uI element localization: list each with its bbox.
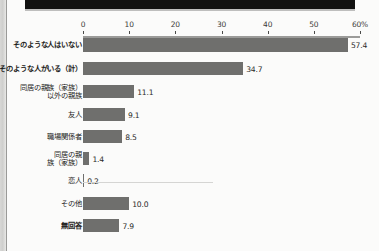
bar-row: そのような人がいる（計）34.7: [0, 62, 379, 75]
category-label: 友人: [0, 111, 82, 120]
bar: [83, 174, 84, 187]
x-tick-label-10: 10: [125, 20, 134, 29]
category-label: そのような人がいる（計）: [0, 65, 82, 74]
bar: [83, 62, 243, 75]
bar-value-label: 0.2: [87, 177, 98, 186]
category-label: 同居の親族（家族） 以外の親族: [0, 84, 82, 100]
bar-row: 恋人0.2: [0, 174, 379, 187]
bar-row: 同居の親 族（家族）1.4: [0, 152, 379, 165]
horizontal-bar-chart: 0102030405060% そのような人はいない57.4そのような人がいる（計…: [0, 0, 379, 251]
category-label: そのような人はいない: [0, 41, 82, 50]
bottom-rule: [83, 182, 213, 183]
x-tick-mark-30: [222, 31, 223, 34]
category-label: 無回答: [0, 222, 82, 231]
bar-value-label: 9.1: [128, 111, 139, 120]
x-tick-mark-60: [360, 31, 361, 34]
x-tick-mark-0: [83, 31, 84, 34]
bar-value-label: 57.4: [351, 41, 367, 50]
bar-value-label: 1.4: [92, 155, 103, 164]
x-tick-mark-50: [314, 31, 315, 34]
bar-row: その他10.0: [0, 197, 379, 210]
bar-value-label: 10.0: [132, 200, 148, 209]
bar: [83, 85, 134, 98]
x-tick-label-50: 50: [309, 20, 318, 29]
bar-value-label: 7.9: [122, 222, 133, 231]
bar: [83, 152, 89, 165]
category-label: 同居の親 族（家族）: [0, 151, 82, 167]
x-tick-mark-40: [268, 31, 269, 34]
x-tick-label-40: 40: [263, 20, 272, 29]
chart-page: 0102030405060% そのような人はいない57.4そのような人がいる（計…: [0, 0, 379, 251]
bar-row: そのような人はいない57.4: [0, 38, 379, 52]
bar-value-label: 34.7: [246, 65, 262, 74]
category-label: 職場関係者: [0, 133, 82, 142]
x-tick-label-20: 20: [171, 20, 180, 29]
x-tick-label-60: 60%: [352, 20, 368, 29]
category-label: その他: [0, 200, 82, 209]
bar: [83, 130, 122, 143]
x-tick-label-30: 30: [217, 20, 226, 29]
bar: [83, 197, 129, 210]
bar: [83, 38, 348, 52]
x-tick-mark-10: [129, 31, 130, 34]
category-label: 恋人: [0, 177, 82, 186]
bar-row: 無回答7.9: [0, 219, 379, 232]
x-tick-mark-20: [175, 31, 176, 34]
bar: [83, 108, 125, 121]
bar-value-label: 8.5: [125, 133, 136, 142]
x-axis-tick-labels: 0102030405060%: [0, 20, 379, 32]
bar-row: 職場関係者8.5: [0, 130, 379, 143]
bar: [83, 219, 119, 232]
x-tick-label-0: 0: [81, 20, 86, 29]
bar-row: 友人9.1: [0, 108, 379, 121]
bar-value-label: 11.1: [137, 88, 153, 97]
bar-row: 同居の親族（家族） 以外の親族11.1: [0, 85, 379, 98]
